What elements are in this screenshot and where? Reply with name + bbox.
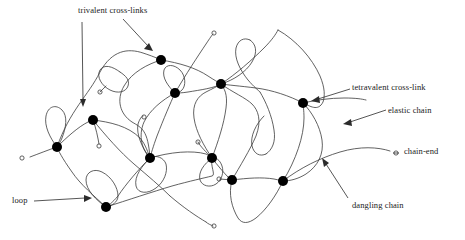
arrowhead-trivalent-right <box>144 43 153 51</box>
elastic-chain <box>283 103 322 181</box>
cross-link-node <box>88 115 98 125</box>
chain-end-marker <box>212 31 216 35</box>
arrowhead-trivalent-left <box>80 99 86 107</box>
elastic-chain <box>194 84 221 158</box>
arrowhead-tetravalent <box>311 96 320 103</box>
label-elastic-chain: elastic chain <box>388 106 432 115</box>
arrowhead-dangling <box>322 158 329 167</box>
leader-trivalent-left <box>82 22 83 100</box>
cross-link-node <box>207 153 217 163</box>
elastic-chain <box>170 196 206 222</box>
chain-group <box>57 30 366 223</box>
cross-link-node <box>227 175 237 185</box>
cross-link-node <box>101 202 111 212</box>
elastic-chain <box>161 60 221 84</box>
leader-dangling <box>326 164 348 198</box>
cross-link-node <box>52 142 62 152</box>
elastic-chain <box>236 39 260 92</box>
dangling-chain <box>100 86 106 92</box>
chain-end-marker <box>97 144 101 148</box>
elastic-chain <box>212 84 227 158</box>
leader-loop <box>34 198 85 201</box>
leader-group <box>34 19 399 202</box>
elastic-chain <box>175 84 221 93</box>
label-loop: loop <box>12 196 28 205</box>
dangling-chain <box>175 34 213 93</box>
elastic-chain <box>278 30 324 108</box>
dangling-chain <box>283 148 390 181</box>
elastic-chain <box>106 158 213 207</box>
cross-link-node <box>216 79 226 89</box>
polymer-network-figure: trivalent cross-links tetravalent cross-… <box>0 0 465 240</box>
elastic-chain <box>221 30 278 84</box>
leader-trivalent-right <box>123 19 148 46</box>
elastic-chain <box>232 178 283 181</box>
cross-link-node <box>298 98 308 108</box>
cross-link-node <box>170 88 180 98</box>
elastic-chain <box>221 84 303 103</box>
elastic-chain <box>230 180 283 223</box>
cross-link-node <box>145 153 155 163</box>
label-chain-end: chain-end <box>404 147 438 156</box>
leader-elastic <box>350 110 386 122</box>
elastic-chain <box>150 93 175 158</box>
cross-link-node-group <box>52 55 308 212</box>
arrowhead-loop <box>84 195 92 202</box>
loop-group <box>46 66 223 208</box>
chain-end-marker <box>20 156 24 160</box>
label-trivalent-cross-links: trivalent cross-links <box>78 6 147 15</box>
elastic-chain <box>252 116 266 155</box>
elastic-chain <box>221 40 256 84</box>
cross-link-node <box>156 55 166 65</box>
cross-link-node <box>278 176 288 186</box>
label-tetravalent-cross-link: tetravalent cross-link <box>352 83 426 92</box>
leader-tetravalent <box>318 89 350 99</box>
chain-end-marker <box>142 115 146 119</box>
arrowhead-elastic <box>343 119 352 126</box>
loop <box>99 66 129 92</box>
label-dangling-chain: dangling chain <box>352 201 404 210</box>
elastic-chain <box>260 92 275 154</box>
